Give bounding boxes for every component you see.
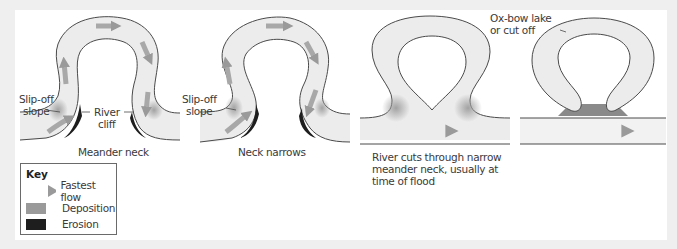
key-title: Key: [26, 168, 48, 180]
stage-1-caption: Meander neck: [78, 146, 149, 158]
slip-off-slope-label-2: Slip-off slope: [182, 93, 217, 117]
key-legend: Key Fastest flow Deposition Erosion: [20, 163, 117, 235]
stage-3-caption-line1: River cuts through narrow: [372, 151, 501, 163]
river-cliff-label-line2: cliff: [98, 118, 116, 130]
river-cliff-label-line1: River: [94, 106, 120, 118]
key-item-deposition: Deposition: [26, 201, 115, 215]
stage-3-river-cuts-through: [360, 16, 510, 144]
stage-2-neck-narrows: [200, 17, 350, 142]
deposition-swatch-icon: [26, 203, 46, 214]
fastest-flow-arrow-icon: [26, 185, 56, 197]
stage-2-caption: Neck narrows: [238, 146, 306, 158]
key-item-fastest-flow: Fastest flow: [26, 184, 116, 198]
erosion-swatch-icon: [26, 219, 46, 230]
slip-off-slope-label-1: Slip-off slope: [19, 93, 54, 117]
oxbow-label-line1: Ox-bow lake: [490, 12, 552, 24]
key-item-erosion: Erosion: [26, 217, 99, 231]
stage-4-oxbow-lake: [520, 18, 666, 144]
stage-3-caption-line3: time of flood: [372, 175, 435, 187]
oxbow-label-line2: or cut off: [490, 24, 535, 36]
stage-3-caption-line2: meander neck, usually at: [372, 163, 498, 175]
